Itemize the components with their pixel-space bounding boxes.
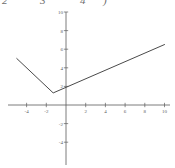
x-tick-label: 4 — [104, 109, 107, 114]
x-tick-label: -4 — [25, 109, 29, 114]
y-tick-label: -2 — [59, 121, 63, 126]
y-tick-label: 10 — [58, 10, 63, 15]
x-tick-label: 10 — [162, 109, 167, 114]
absolute-value-curve — [17, 45, 165, 93]
y-tick-label: 8 — [61, 28, 64, 33]
y-tick-label: 2 — [61, 84, 64, 89]
x-tick-label: 2 — [84, 109, 87, 114]
y-tick-label: 4 — [61, 65, 64, 70]
y-tick-label: -4 — [59, 140, 63, 145]
coordinate-plot — [0, 0, 175, 168]
x-tick-label: -2 — [44, 109, 48, 114]
axes — [8, 12, 170, 165]
x-tick-label: 8 — [144, 109, 147, 114]
scanned-figure: 2 3 4 ) -4-2246810 108642-2-4 — [0, 0, 175, 168]
x-tick-label: 6 — [124, 109, 127, 114]
y-tick-label: 6 — [61, 47, 64, 52]
